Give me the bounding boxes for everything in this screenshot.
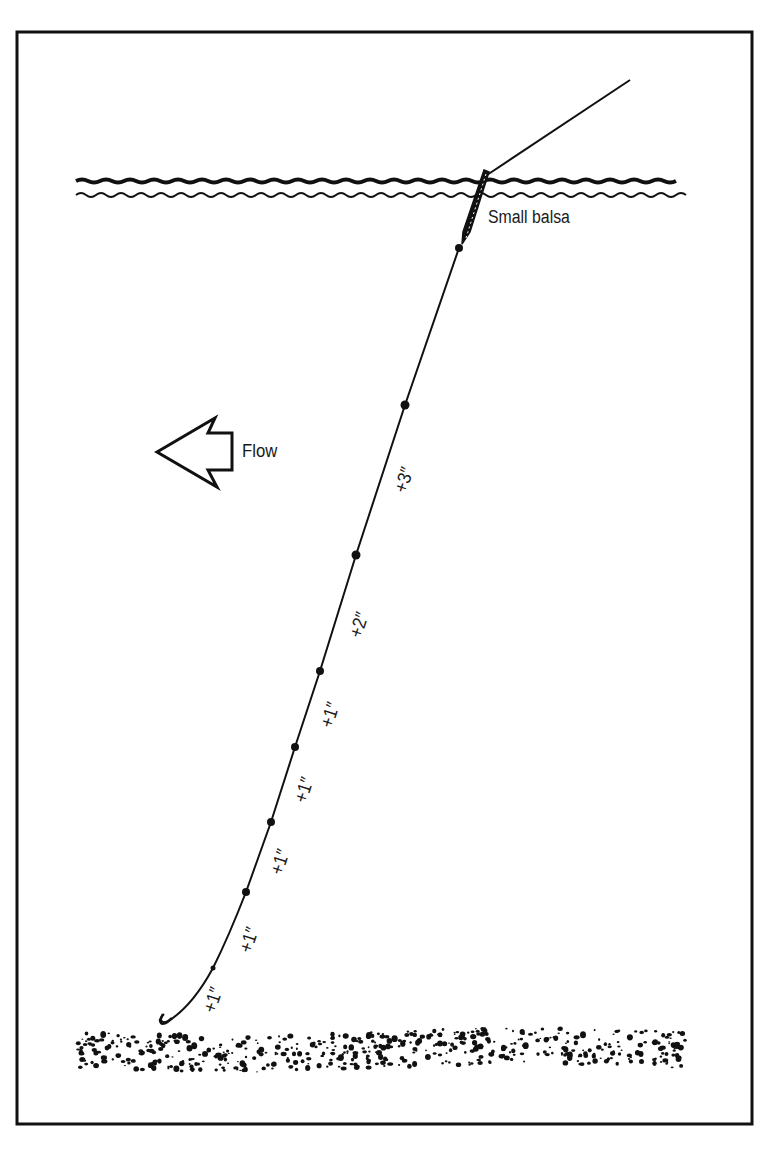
split-shot bbox=[267, 818, 275, 826]
water-surface-line bbox=[76, 180, 676, 183]
split-shot bbox=[211, 966, 216, 971]
split-shot bbox=[352, 551, 361, 560]
water-ripple-line bbox=[76, 193, 686, 197]
rod-line bbox=[487, 80, 630, 175]
split-shot bbox=[291, 743, 299, 751]
diagram-canvas bbox=[0, 0, 774, 1155]
float-label: Small balsa bbox=[488, 207, 570, 228]
split-shot bbox=[242, 888, 250, 896]
flow-label: Flow bbox=[242, 440, 277, 462]
riverbed-gravel bbox=[76, 1027, 687, 1073]
flow-arrow-icon bbox=[157, 418, 232, 487]
fishing-line bbox=[161, 248, 459, 1022]
split-shot bbox=[401, 401, 410, 410]
hook-icon bbox=[160, 1014, 172, 1024]
split-shot-group bbox=[211, 401, 410, 971]
split-shot bbox=[316, 667, 324, 675]
